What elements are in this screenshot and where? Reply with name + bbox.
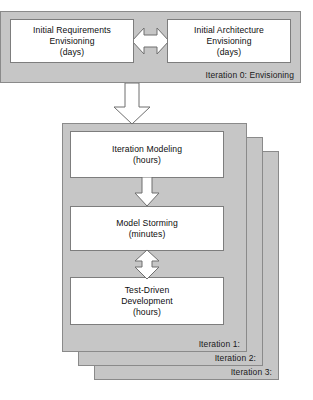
box-line-3: (days) bbox=[60, 47, 84, 58]
box-initial-architecture-envisioning: Initial Architecture Envisioning (days) bbox=[167, 19, 291, 63]
box-line-2: Envisioning bbox=[49, 36, 94, 47]
iteration-2-label: Iteration 2: bbox=[215, 353, 256, 363]
box-line-1: Initial Architecture bbox=[194, 25, 264, 36]
box-line-1: Model Storming bbox=[116, 218, 178, 229]
box-line-1: Initial Requirements bbox=[33, 25, 111, 36]
box-line-1: Iteration Modeling bbox=[112, 144, 182, 155]
diagram-canvas: Iteration 0: Envisioning Initial Require… bbox=[0, 0, 313, 400]
box-initial-requirements-envisioning: Initial Requirements Envisioning (days) bbox=[10, 19, 134, 63]
box-test-driven-development: Test-Driven Development (hours) bbox=[70, 277, 224, 325]
box-line-3: (hours) bbox=[133, 307, 161, 318]
box-line-2: Envisioning bbox=[206, 36, 251, 47]
box-line-2: (hours) bbox=[133, 155, 161, 166]
box-line-3: (days) bbox=[217, 47, 241, 58]
box-iteration-modeling: Iteration Modeling (hours) bbox=[70, 131, 224, 178]
envisioning-panel-label: Iteration 0: Envisioning bbox=[206, 70, 294, 80]
bidirectional-horizontal-arrow-icon bbox=[131, 27, 170, 55]
box-line-2: (minutes) bbox=[129, 229, 166, 240]
box-line-2: Development bbox=[121, 296, 173, 307]
box-line-1: Test-Driven bbox=[125, 285, 170, 296]
iteration-1-label: Iteration 1: bbox=[199, 339, 240, 349]
iteration-3-label: Iteration 3: bbox=[231, 367, 272, 377]
down-arrow-to-iterations-icon bbox=[112, 83, 152, 125]
box-model-storming: Model Storming (minutes) bbox=[70, 206, 224, 251]
down-arrow-modeling-to-storming-icon bbox=[134, 177, 160, 207]
bidirectional-arrow-storming-to-tdd-icon bbox=[134, 249, 160, 280]
